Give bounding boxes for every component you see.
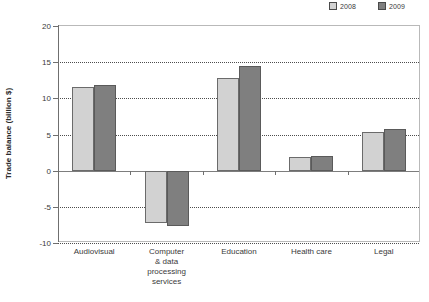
bar-2009-education — [239, 66, 261, 171]
y-axis-title: Trade balance (billion $) — [2, 25, 16, 242]
bar-2009-audiovisual — [94, 85, 116, 170]
bar-2009-computer-data-processing-services — [167, 171, 189, 226]
y-axis-line — [58, 25, 59, 242]
legend-entry-2009: 2009 — [378, 2, 405, 10]
y-tick-label--5: -5 — [44, 202, 51, 211]
x-label-line: services — [130, 277, 202, 287]
bar-2009-legal — [384, 129, 406, 170]
y-tick — [53, 243, 58, 244]
legend-label-2009: 2009 — [389, 3, 405, 10]
bar-2008-computer-data-processing-services — [145, 171, 167, 224]
y-tick-label-0: 0 — [47, 166, 51, 175]
bars-layer — [58, 26, 419, 241]
y-axis-title-text: Trade balance (billion $) — [5, 88, 14, 179]
x-label-line: Audiovisual — [58, 247, 130, 257]
x-axis-label-education: Education — [203, 247, 275, 257]
bar-2008-legal — [362, 132, 384, 171]
y-tick-label-10: 10 — [42, 94, 51, 103]
chart-legend: 2008 2009 — [329, 2, 405, 10]
y-tick-label-15: 15 — [42, 58, 51, 67]
x-axis-label-health-care: Health care — [275, 247, 347, 257]
bar-2008-education — [217, 78, 239, 171]
x-axis-label-computer-data-processing-services: Computer& dataprocessingservices — [130, 247, 202, 287]
bar-2008-health-care — [289, 157, 311, 171]
x-label-line: Health care — [275, 247, 347, 257]
bar-2009-health-care — [311, 156, 333, 170]
x-axis-label-legal: Legal — [348, 247, 420, 257]
legend-swatch-2009 — [378, 2, 386, 10]
x-label-line: & data — [130, 257, 202, 267]
legend-entry-2008: 2008 — [329, 2, 356, 10]
legend-label-2008: 2008 — [340, 3, 356, 10]
bar-2008-audiovisual — [72, 87, 94, 170]
x-axis-label-audiovisual: Audiovisual — [58, 247, 130, 257]
x-label-line: Legal — [348, 247, 420, 257]
plot-area: 20151050-5-10 — [58, 25, 420, 242]
x-label-line: processing — [130, 267, 202, 277]
bar-chart: 2008 2009 Trade balance (billion $) 2015… — [0, 0, 429, 302]
gridline--10 — [58, 243, 419, 244]
y-tick-label-5: 5 — [47, 130, 51, 139]
legend-swatch-2008 — [329, 2, 337, 10]
y-tick-label--10: -10 — [39, 239, 51, 248]
x-label-line: Education — [203, 247, 275, 257]
x-axis-labels: AudiovisualComputer& dataprocessingservi… — [58, 247, 420, 302]
x-label-line: Computer — [130, 247, 202, 257]
y-tick-label-20: 20 — [42, 22, 51, 31]
